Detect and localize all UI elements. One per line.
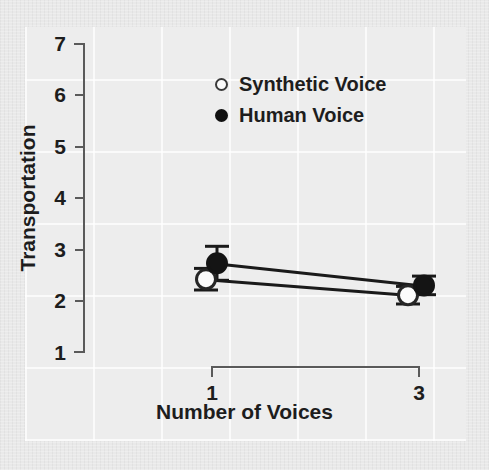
legend-item-human: Human Voice <box>215 104 364 127</box>
legend-label-synthetic: Synthetic Voice <box>239 73 386 96</box>
legend-label-human: Human Voice <box>239 104 364 127</box>
legend-item-synthetic: Synthetic Voice <box>215 73 386 96</box>
chart-panel: 7 6 5 4 3 2 1 1 3 <box>25 27 466 441</box>
y-axis-title: Transportation <box>16 108 40 288</box>
open-circle-icon <box>215 78 228 91</box>
marker-human-1 <box>208 254 227 273</box>
marker-human-3 <box>415 276 434 295</box>
filled-circle-icon <box>215 109 228 122</box>
x-axis-title: Number of Voices <box>0 400 489 424</box>
